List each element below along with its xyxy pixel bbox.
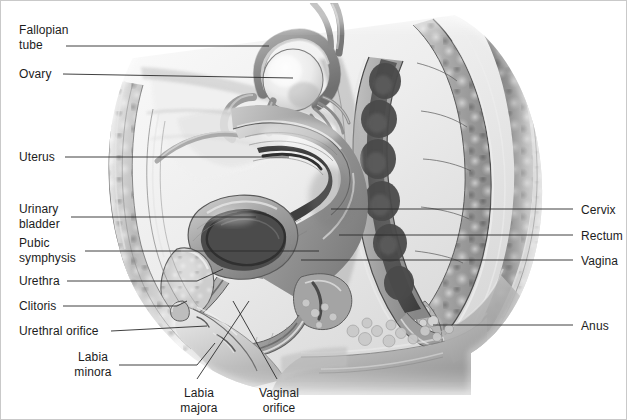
leader-clitoris xyxy=(63,301,187,306)
label-ovary: Ovary xyxy=(19,67,52,82)
label-urethral-orifice: Urethral orifice xyxy=(19,324,99,339)
leader-ovary xyxy=(63,74,293,78)
label-urinary-bladder: Urinary bladder xyxy=(19,202,60,232)
label-clitoris: Clitoris xyxy=(19,299,56,314)
label-labia-majora: Labia majora xyxy=(171,386,227,416)
leader-labia-minora xyxy=(119,343,215,365)
anatomy-figure: Fallopian tube Ovary Uterus Urinary blad… xyxy=(0,0,627,420)
label-vagina: Vagina xyxy=(581,254,618,269)
label-uterus: Uterus xyxy=(19,150,55,165)
label-rectum: Rectum xyxy=(581,229,623,244)
label-labia-minora: Labia minora xyxy=(67,350,119,380)
leader-labia-majora xyxy=(197,301,249,379)
leader-urethral-orifice xyxy=(111,326,207,331)
label-pubic-symphysis: Pubic symphysis xyxy=(19,236,76,266)
label-anus: Anus xyxy=(581,319,609,334)
label-fallopian-tube: Fallopian tube xyxy=(19,23,69,53)
label-vaginal-orifice: Vaginal orifice xyxy=(250,386,308,416)
label-cervix: Cervix xyxy=(581,203,616,218)
leader-vaginal-orifice xyxy=(233,301,277,379)
leader-urethra xyxy=(67,269,223,281)
label-urethra: Urethra xyxy=(19,274,60,289)
